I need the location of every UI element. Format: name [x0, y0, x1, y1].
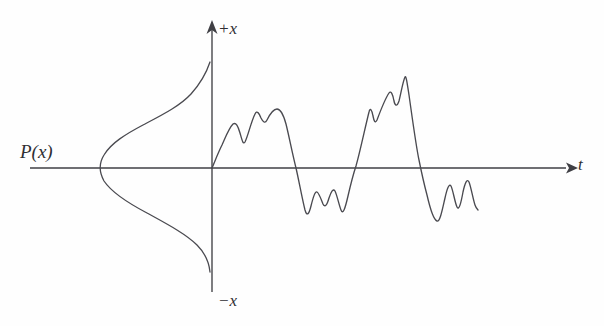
figure-canvas	[0, 0, 604, 326]
time-axis-arrowhead	[566, 163, 578, 174]
brownian-motion-figure: P(x) +x −x t	[0, 0, 604, 326]
gaussian-distribution-curve	[100, 62, 210, 272]
probability-density-label: P(x)	[20, 142, 53, 161]
time-axis-label: t	[578, 156, 583, 173]
negative-x-axis-label: −x	[218, 292, 237, 309]
random-walk-trace	[212, 77, 478, 221]
positive-x-axis-label: +x	[218, 20, 237, 37]
